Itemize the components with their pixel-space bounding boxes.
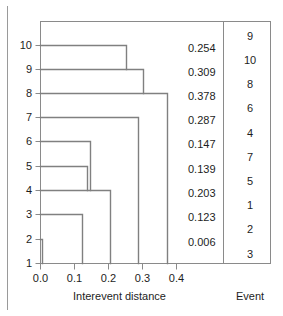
- event-column-title: Event: [228, 290, 272, 302]
- distance-value-0.139: 0.139: [188, 164, 216, 175]
- link-0.139: [41, 167, 88, 191]
- event-value-1: 1: [238, 200, 262, 211]
- distance-value-0.378: 0.378: [188, 91, 216, 102]
- y-tick-label-9: 9: [10, 64, 32, 75]
- distance-value-0.123: 0.123: [188, 212, 216, 223]
- event-value-8: 8: [238, 79, 262, 90]
- plot-border: [41, 22, 271, 264]
- event-value-2: 2: [238, 224, 262, 235]
- x-axis-title: Interevent distance: [52, 290, 187, 302]
- y-tick-label-5: 5: [10, 161, 32, 172]
- distance-value-0.287: 0.287: [188, 115, 216, 126]
- x-tick-label-0.2: 0.2: [94, 273, 124, 284]
- distance-value-0.006: 0.006: [188, 237, 216, 248]
- x-tick-label-0.0: 0.0: [26, 273, 56, 284]
- distance-value-0.203: 0.203: [188, 188, 216, 199]
- event-value-4: 4: [238, 128, 262, 139]
- y-tick-label-3: 3: [10, 209, 32, 220]
- event-value-3: 3: [238, 249, 262, 260]
- distance-value-0.254: 0.254: [188, 43, 216, 54]
- y-tick-label-7: 7: [10, 112, 32, 123]
- x-tick-label-0.3: 0.3: [128, 273, 158, 284]
- event-value-5: 5: [238, 176, 262, 187]
- y-tick-label-6: 6: [10, 136, 32, 147]
- x-tick-label-0.1: 0.1: [60, 273, 90, 284]
- x-tick-label-0.4: 0.4: [162, 273, 192, 284]
- dendrogram-links: [41, 46, 168, 264]
- event-value-9: 9: [238, 31, 262, 42]
- x-axis-ticks: [41, 264, 177, 270]
- link-0.309: [41, 70, 144, 94]
- link-0.254: [41, 46, 127, 70]
- event-value-10: 10: [238, 55, 262, 66]
- event-value-7: 7: [238, 152, 262, 163]
- distance-value-0.309: 0.309: [188, 67, 216, 78]
- link-0.203: [41, 191, 111, 264]
- distance-value-0.147: 0.147: [188, 139, 216, 150]
- y-tick-label-1: 1: [10, 258, 32, 269]
- y-axis-ticks: [36, 46, 41, 264]
- y-tick-label-10: 10: [10, 40, 32, 51]
- dendrogram-figure: 10 9 8 7 6 5 4 3 2 1 0.0 0.1 0.2 0.3 0.4…: [0, 0, 283, 316]
- y-tick-label-2: 2: [10, 234, 32, 245]
- event-value-6: 6: [238, 103, 262, 114]
- y-tick-label-4: 4: [10, 185, 32, 196]
- y-tick-label-8: 8: [10, 88, 32, 99]
- link-0.123: [41, 215, 83, 264]
- link-0.378: [41, 94, 168, 264]
